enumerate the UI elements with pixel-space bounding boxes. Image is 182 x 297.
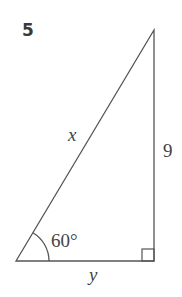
angle-label: 60° [51, 230, 78, 252]
hypotenuse-label: x [68, 124, 76, 146]
diagram-canvas: 5 x 9 60° y [0, 0, 182, 297]
triangle [16, 30, 154, 261]
angle-arc [33, 233, 49, 261]
base-label: y [89, 264, 97, 286]
right-angle-marker [142, 249, 154, 261]
triangle-figure [0, 0, 182, 297]
side-length-label: 9 [163, 140, 173, 162]
